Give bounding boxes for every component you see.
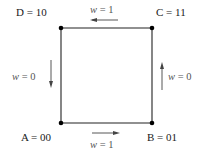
vertex-b: [150, 121, 155, 126]
arrow-down-icon: [49, 81, 53, 88]
vertex-a: [59, 121, 64, 126]
edge-label-top: w = 1: [90, 4, 113, 15]
node-label-d: D = 10: [16, 6, 47, 18]
edge-label-bottom-var: w: [90, 139, 97, 150]
edge-label-left-eq: = 0: [19, 71, 35, 82]
node-label-b: B = 01: [147, 131, 177, 143]
node-label-c: C = 11: [156, 6, 186, 18]
edge-label-bottom-eq: = 1: [97, 139, 113, 150]
edge-label-top-eq: = 1: [97, 4, 113, 15]
node-label-a: A = 00: [21, 131, 52, 143]
vertex-c: [150, 26, 155, 31]
edge-label-bottom: w = 1: [90, 139, 113, 150]
edge-label-top-var: w: [90, 4, 97, 15]
edge-label-right-var: w: [168, 71, 175, 82]
arrow-right-icon: [113, 131, 120, 135]
edge-label-left-var: w: [12, 71, 19, 82]
arrow-left-icon: [90, 18, 97, 22]
edge-label-right-eq: = 0: [175, 71, 191, 82]
edge-label-left: w = 0: [12, 71, 35, 82]
arrow-up-icon: [160, 62, 164, 69]
state-diagram: D = 10 C = 11 A = 00 B = 01 w = 1 w = 0 …: [0, 0, 210, 156]
edge-label-right: w = 0: [168, 71, 191, 82]
vertex-d: [59, 26, 64, 31]
